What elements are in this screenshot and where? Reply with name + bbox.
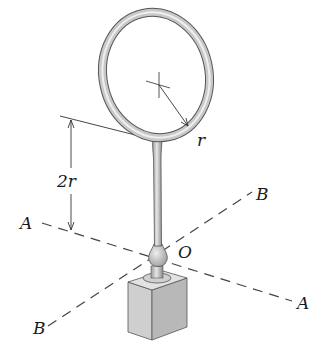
origin-label: O — [178, 242, 192, 262]
axis-a-right-label: A — [295, 293, 309, 313]
thin-ring — [91, 2, 221, 147]
axis-b-bottom-label: B — [32, 318, 46, 338]
slender-post — [153, 137, 162, 246]
axis-a-left-label: A — [18, 213, 32, 233]
radius-label: r — [197, 130, 206, 150]
radius-arrow — [159, 85, 188, 126]
post-collar — [143, 266, 171, 283]
ring-center-mark — [146, 72, 170, 98]
ring-on-post-diagram: 2r r A A B B O — [0, 0, 335, 362]
axis-b-top-label: B — [255, 184, 269, 204]
post-bulb — [149, 244, 168, 267]
height-label: 2r — [56, 171, 77, 191]
